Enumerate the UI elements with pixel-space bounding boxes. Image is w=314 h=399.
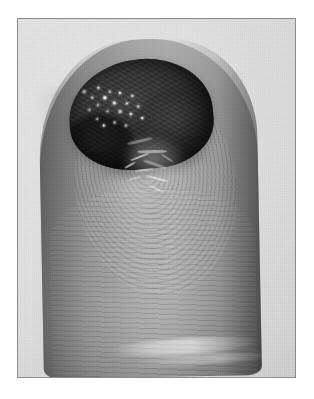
specular-highlight <box>91 96 93 98</box>
page-root <box>0 0 314 399</box>
specular-highlight <box>109 91 111 93</box>
specular-highlight <box>131 95 133 97</box>
specular-highlight <box>106 110 108 112</box>
photograph <box>18 19 295 377</box>
photo-frame <box>17 18 296 378</box>
specular-highlight <box>114 121 116 123</box>
specular-highlight <box>119 92 121 94</box>
specular-highlight <box>88 109 90 111</box>
specular-highlight <box>137 105 139 107</box>
specular-highlight <box>125 124 127 126</box>
specular-highlight <box>103 124 105 126</box>
lesion <box>64 53 217 175</box>
specular-highlight <box>126 102 128 104</box>
fingertip-subject <box>38 37 262 377</box>
